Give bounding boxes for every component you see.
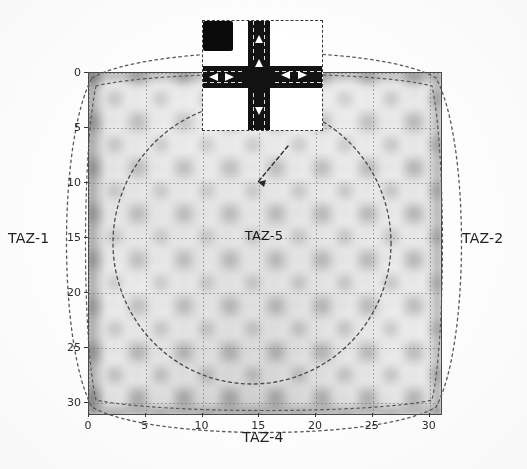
x-tick-label: 5 — [141, 419, 148, 432]
y-tick-label: 10 — [67, 176, 81, 189]
lane-stripe-east-2 — [275, 82, 323, 83]
tick-mark-x — [429, 413, 430, 417]
zone-label-taz4: TAZ-4 — [242, 429, 283, 445]
zone-label-taz2: TAZ-2 — [462, 230, 503, 246]
y-tick-label: 15 — [67, 231, 81, 244]
y-tick-label: 0 — [74, 66, 81, 79]
tick-mark-y — [84, 72, 88, 73]
tick-mark-y — [84, 347, 88, 348]
figure-container: 051015202530051015202530 TAZ-3 TAZ-4 TAZ… — [0, 0, 527, 469]
arrow-east-icon — [298, 71, 307, 79]
arrow-west-2-icon — [225, 73, 234, 81]
tick-mark-x — [372, 413, 373, 417]
tick-mark-y — [84, 182, 88, 183]
intersection-canvas — [203, 21, 322, 130]
lane-stripe-south — [253, 93, 254, 131]
x-tick-label: 0 — [85, 419, 92, 432]
y-tick-label: 25 — [67, 341, 81, 354]
intersection-inset — [202, 20, 323, 131]
x-tick-label: 20 — [308, 419, 322, 432]
y-tick-label: 5 — [74, 121, 81, 134]
arrow-north-icon — [255, 35, 263, 43]
arrow-north-2-icon — [255, 59, 263, 67]
lane-stripe-north — [253, 21, 254, 61]
zone-label-taz1: TAZ-1 — [8, 230, 49, 246]
tick-mark-y — [84, 402, 88, 403]
x-tick-label: 10 — [195, 419, 209, 432]
lane-stripe-south-2 — [264, 93, 265, 131]
x-tick-label: 25 — [365, 419, 379, 432]
tick-mark-y — [84, 292, 88, 293]
tick-mark-x — [88, 413, 89, 417]
tick-mark-x — [258, 413, 259, 417]
tick-mark-x — [202, 413, 203, 417]
tick-mark-y — [84, 127, 88, 128]
tick-mark-x — [315, 413, 316, 417]
y-tick-label: 20 — [67, 286, 81, 299]
zone-label-taz5: TAZ-5 — [245, 228, 283, 243]
y-tick-label: 30 — [67, 396, 81, 409]
tick-mark-y — [84, 237, 88, 238]
lane-stripe-north-2 — [264, 21, 265, 61]
junction-box — [203, 21, 233, 51]
arrow-west-icon — [209, 73, 218, 81]
lane-stripe-west-2 — [203, 82, 243, 83]
tick-mark-x — [145, 413, 146, 417]
arrow-east-2-icon — [281, 71, 290, 79]
x-tick-label: 30 — [422, 419, 436, 432]
arrow-south-icon — [255, 107, 263, 115]
lane-stripe-west — [203, 71, 243, 72]
